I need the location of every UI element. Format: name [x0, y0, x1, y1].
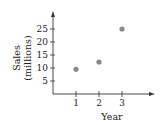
x-tick-label: 3: [119, 98, 125, 108]
data-point: [119, 26, 124, 31]
sales-scatter-chart: 510152025 123 Year Sales (millions): [0, 0, 162, 125]
data-points: [73, 26, 124, 72]
y-tick-label: 15: [37, 50, 49, 60]
y-tick-label: 5: [42, 76, 48, 86]
y-axis-label: Sales (millions): [11, 35, 33, 80]
y-tick-label: 20: [37, 37, 49, 47]
data-point: [73, 67, 78, 72]
y-axis-label-line-2: (millions): [22, 35, 33, 80]
y-axis-arrow-icon: [51, 11, 55, 17]
y-tick-label: 10: [37, 63, 49, 73]
data-point: [96, 59, 101, 64]
x-tick-label: 1: [73, 98, 79, 108]
x-tick-label: 2: [96, 98, 102, 108]
x-axis-arrow-icon: [149, 92, 155, 96]
x-axis-label: Year: [100, 111, 123, 122]
y-axis-label-line-1: Sales: [11, 45, 22, 71]
y-ticks: 510152025: [37, 24, 55, 86]
y-tick-label: 25: [37, 24, 49, 34]
